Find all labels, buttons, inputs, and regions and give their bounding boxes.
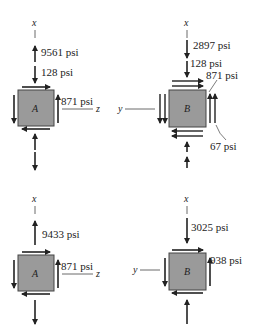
stress-label-axial: 9433 psi (42, 229, 80, 240)
axis-label-z: z (96, 103, 100, 114)
stress-label-shear-2: 67 psi (210, 141, 237, 152)
axis-label-y: y (133, 264, 137, 275)
axis-label-y: y (118, 103, 122, 114)
stress-label-axial-2: 128 psi (190, 58, 222, 69)
stress-label-axial-1: 2897 psi (193, 40, 231, 51)
axis-label-x: x (184, 193, 188, 204)
element-label-a: A (32, 103, 38, 114)
stress-label-axial: 3025 psi (191, 222, 229, 233)
axis-label-x: x (184, 17, 188, 28)
element-label-b: B (184, 103, 190, 114)
stress-label-axial-1: 9561 psi (41, 47, 79, 58)
stress-label-shear-1: 871 psi (206, 70, 238, 81)
leader-871 (209, 80, 217, 92)
element-label-a: A (32, 268, 38, 279)
axis-label-x: x (32, 193, 36, 204)
stress-label-shear: 871 psi (61, 261, 93, 272)
element-label-b: B (184, 266, 190, 277)
stress-label-shear: 938 psi (210, 255, 242, 266)
axis-label-z: z (96, 268, 100, 279)
leader-67 (216, 125, 226, 140)
stress-label-shear: 871 psi (61, 96, 93, 107)
axis-label-x: x (32, 17, 36, 28)
stress-label-axial-2: 128 psi (41, 67, 73, 78)
